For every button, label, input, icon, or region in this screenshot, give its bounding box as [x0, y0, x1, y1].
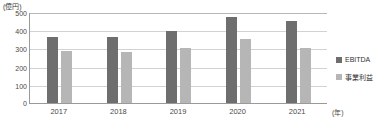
bar: [121, 52, 132, 103]
y-axis-tick-label: 200: [15, 64, 27, 71]
bar: [166, 31, 177, 103]
bar: [240, 39, 251, 103]
legend-label: EBITDA: [345, 56, 370, 63]
bar-group: [30, 13, 90, 103]
legend: EBITDA事業利益: [336, 56, 373, 91]
legend-swatch-icon: [336, 57, 342, 63]
y-axis-tick-label: 300: [15, 46, 27, 53]
bar: [180, 48, 191, 103]
y-axis-tick-label: 500: [15, 10, 27, 17]
legend-item[interactable]: 事業利益: [336, 72, 373, 82]
bar: [226, 17, 237, 103]
x-axis-tick-label: 2019: [170, 107, 187, 116]
bar: [300, 48, 311, 104]
legend-item[interactable]: EBITDA: [336, 56, 373, 63]
x-axis-tick-label: 2020: [229, 107, 246, 116]
bar-chart: (億円) 1002003004005000 201720182019202020…: [0, 0, 382, 132]
bar: [286, 21, 297, 103]
bar: [47, 37, 58, 103]
bar-group: [209, 13, 269, 103]
x-axis-unit-label: (年): [332, 107, 344, 117]
bar: [61, 51, 72, 103]
y-axis-tick-label: 100: [15, 82, 27, 89]
y-axis-zero-label: 0: [23, 100, 27, 107]
x-axis-tick-label: 2018: [110, 107, 127, 116]
bar-group: [268, 13, 328, 103]
bar-group: [149, 13, 209, 103]
bar-group: [90, 13, 150, 103]
legend-swatch-icon: [336, 74, 342, 80]
y-axis-tick-label: 400: [15, 28, 27, 35]
x-axis-tick-label: 2021: [289, 107, 306, 116]
plot-inner: 1002003004005000: [30, 13, 327, 103]
legend-label: 事業利益: [345, 72, 373, 82]
plot-area: 1002003004005000: [29, 13, 327, 104]
bar: [107, 37, 118, 103]
x-axis-tick-label: 2017: [50, 107, 67, 116]
